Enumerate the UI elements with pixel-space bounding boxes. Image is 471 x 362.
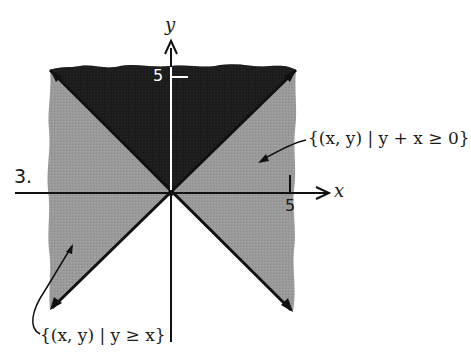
upper-right-set-label: {(x, y) | y + x ≥ 0} <box>308 128 470 148</box>
x-tick-label: 5 <box>285 196 295 215</box>
inequality-regions-diagram: 3. y x 5 5 {(x, y) | y + x ≥ 0} {(x, y) … <box>0 0 471 362</box>
y-tick-label: 5 <box>153 66 163 85</box>
diagram-canvas <box>0 0 471 362</box>
x-axis-label: x <box>334 180 344 201</box>
problem-number: 3. <box>14 165 32 187</box>
y-axis-label: y <box>165 14 175 35</box>
origin-point <box>168 190 174 196</box>
lower-left-set-label: {(x, y) | y ≥ x} <box>40 325 166 345</box>
